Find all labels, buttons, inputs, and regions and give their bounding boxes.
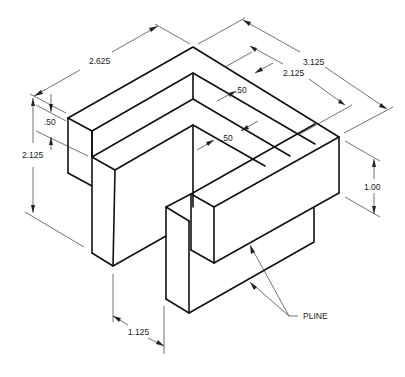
arrow-icon <box>49 104 53 112</box>
arrow-icon <box>379 103 387 109</box>
arrow-icon <box>49 137 53 145</box>
label-050-left: .50 <box>44 117 56 127</box>
ext-line <box>36 131 88 156</box>
lower-block-top-left <box>166 207 189 221</box>
label-1125: 1.125 <box>128 327 150 337</box>
label-3125: 3.125 <box>303 57 325 67</box>
label-050-top: .50 <box>235 85 247 95</box>
arrow-icon <box>113 316 121 322</box>
ext-line <box>30 94 66 113</box>
ext-line <box>155 24 190 44</box>
ext-line <box>344 107 393 133</box>
label-pline: PLINE <box>303 311 328 321</box>
arrow-icon <box>31 98 35 106</box>
arrow-icon <box>250 46 257 52</box>
label-2125-left: 2.125 <box>22 150 44 160</box>
arrow-icon <box>34 90 43 96</box>
dim-line-3125 <box>325 67 387 109</box>
arrow-icon <box>149 26 158 32</box>
isometric-drawing: 2.625 3.125 2.125 .50 .50 .50 2.125 1.00… <box>0 0 405 377</box>
label-2625: 2.625 <box>89 56 111 66</box>
arrow-icon <box>31 205 35 213</box>
right-arm-top-face <box>166 137 339 207</box>
arrow-icon <box>156 340 164 346</box>
inner-ledge-edge <box>92 99 290 157</box>
right-arm-bottom <box>214 193 339 263</box>
arrow-icon <box>372 159 376 167</box>
left-block-top-face <box>68 73 315 144</box>
arrow-icon <box>338 99 345 105</box>
front-block-front-vertical <box>113 170 115 266</box>
pline-leader <box>250 245 289 316</box>
arrow-icon <box>243 20 251 26</box>
label-2125-right: 2.125 <box>283 68 305 78</box>
left-block-bottom <box>68 173 92 186</box>
front-block-bottom <box>92 236 166 266</box>
inner-channel-edge <box>92 125 265 170</box>
right-arm-inner <box>191 250 214 263</box>
dimension-lines <box>25 18 393 354</box>
dimension-labels: 2.625 3.125 2.125 .50 .50 .50 2.125 1.00… <box>22 56 381 337</box>
ext-line <box>25 212 84 247</box>
ext-line <box>345 141 380 161</box>
arrow-icon <box>206 140 214 146</box>
arrow-icon <box>255 67 263 73</box>
drawing-canvas: 2.625 3.125 2.125 .50 .50 .50 2.125 1.00… <box>0 0 405 377</box>
label-100: 1.00 <box>364 182 381 192</box>
arrow-icon <box>250 282 257 290</box>
ext-line <box>225 52 252 67</box>
ext-line <box>198 18 245 44</box>
object-geometry <box>68 47 339 313</box>
label-050-inner: .50 <box>221 133 233 143</box>
